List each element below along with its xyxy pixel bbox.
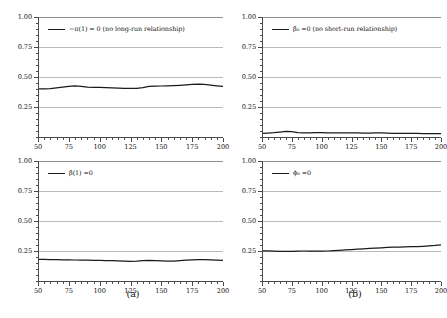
x-tick-200 [441,282,442,286]
y-tick-minor [260,53,262,54]
y-tick-minor [36,227,38,228]
x-tick-minor [168,282,169,284]
x-tick-label-125: 125 [345,287,357,295]
x-tick-minor [375,282,376,284]
x-tick-minor [429,138,430,140]
y-tick-0.75 [258,47,262,48]
x-tick-label-75: 75 [288,143,296,151]
y-tick-minor [36,215,38,216]
x-tick-label-200: 200 [435,143,447,151]
y-tick-minor [260,89,262,90]
y-tick-minor [36,275,38,276]
x-tick-label-175: 175 [405,143,417,151]
y-tick-1 [258,17,262,18]
y-tick-minor [260,113,262,114]
y-tick-minor [36,257,38,258]
plot-area [38,161,223,281]
x-tick-50 [38,138,39,142]
chart-legend: −π(1) = 0 (no long-run relationship) [48,25,185,33]
x-tick-minor [316,138,317,140]
x-tick-minor [298,138,299,140]
y-tick-minor [36,125,38,126]
plot-area [262,17,441,137]
x-tick-125 [352,282,353,286]
x-tick-minor [357,282,358,284]
x-tick-75 [292,138,293,142]
plot-area [38,17,223,137]
x-tick-label-175: 175 [186,287,198,295]
y-tick-minor [36,29,38,30]
x-tick-minor [346,282,347,284]
x-tick-minor [155,282,156,284]
y-tick-minor [36,179,38,180]
x-tick-minor [106,138,107,140]
x-tick-minor [435,282,436,284]
x-tick-label-75: 75 [65,287,73,295]
y-axis-line [262,17,263,137]
x-tick-label-200: 200 [217,287,229,295]
x-tick-200 [441,138,442,142]
y-tick-minor [260,233,262,234]
y-tick-minor [36,203,38,204]
data-series-line [262,17,441,137]
x-tick-minor [174,138,175,140]
x-tick-minor [340,138,341,140]
x-tick-minor [94,138,95,140]
x-tick-minor [180,138,181,140]
y-tick-minor [260,173,262,174]
y-tick-minor [260,131,262,132]
x-tick-minor [57,138,58,140]
x-tick-minor [87,138,88,140]
x-tick-minor [417,138,418,140]
x-tick-minor [369,138,370,140]
x-tick-50 [262,138,263,142]
x-tick-minor [286,282,287,284]
x-tick-minor [124,282,125,284]
y-tick-label-0.5: 0.50 [18,73,32,81]
x-tick-125 [131,138,132,142]
x-tick-minor [357,138,358,140]
figure-root: (a) (b) 0.250.500.751.005075100125150175… [0,0,447,318]
x-tick-minor [304,282,305,284]
y-tick-1 [34,161,38,162]
x-tick-label-75: 75 [288,287,296,295]
y-tick-1 [34,17,38,18]
x-tick-150 [161,138,162,142]
x-tick-minor [198,138,199,140]
x-tick-200 [223,138,224,142]
x-tick-75 [69,138,70,142]
y-tick-minor [36,263,38,264]
x-tick-minor [57,282,58,284]
x-tick-100 [322,138,323,142]
y-tick-minor [260,275,262,276]
y-tick-minor [36,245,38,246]
x-tick-minor [217,282,218,284]
y-tick-minor [36,95,38,96]
y-tick-minor [260,203,262,204]
x-tick-minor [180,282,181,284]
x-tick-minor [423,282,424,284]
x-tick-175 [192,282,193,286]
x-tick-label-75: 75 [65,143,73,151]
x-tick-label-150: 150 [375,143,387,151]
chart-panel-top-left: 0.250.500.751.005075100125150175200−π(1)… [38,17,223,137]
y-tick-minor [260,179,262,180]
x-tick-minor [328,138,329,140]
y-tick-minor [260,245,262,246]
y-axis-line [262,161,263,281]
x-tick-minor [393,138,394,140]
y-tick-label-1: 1.00 [242,157,256,165]
x-tick-minor [112,138,113,140]
x-tick-minor [211,282,212,284]
x-tick-minor [63,138,64,140]
x-tick-minor [417,282,418,284]
y-tick-label-0.25: 0.25 [18,247,32,255]
x-tick-minor [75,282,76,284]
x-tick-150 [381,138,382,142]
x-tick-minor [50,282,51,284]
x-tick-minor [274,282,275,284]
y-axis-line [38,161,39,281]
y-tick-minor [36,59,38,60]
x-tick-100 [100,282,101,286]
x-tick-175 [411,282,412,286]
